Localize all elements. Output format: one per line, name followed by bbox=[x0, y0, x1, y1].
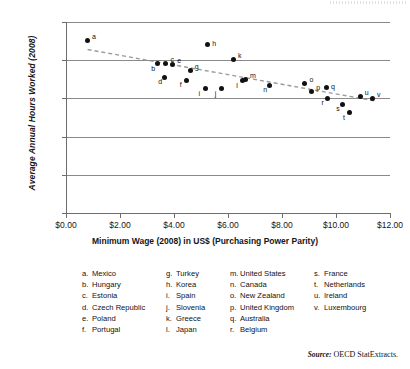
legend-item-key: k. bbox=[166, 313, 176, 324]
data-point-label: s bbox=[336, 105, 340, 112]
legend-item-key: p. bbox=[230, 302, 240, 313]
gridline bbox=[66, 22, 390, 23]
data-point-label: q bbox=[331, 83, 335, 90]
data-point-label: f bbox=[180, 81, 182, 88]
legend-item: g.Turkey bbox=[166, 268, 228, 279]
data-point-label: e bbox=[177, 57, 181, 64]
x-tick-label: $12.00 bbox=[367, 220, 410, 230]
trendline bbox=[66, 22, 390, 213]
legend-item: f.Portugal bbox=[82, 324, 162, 335]
legend-item-key: m. bbox=[230, 268, 240, 279]
legend-item-label: Spain bbox=[176, 291, 195, 300]
gridline bbox=[66, 175, 390, 176]
legend-item: c.Estonia bbox=[82, 290, 162, 301]
legend-item-label: Australia bbox=[240, 314, 270, 323]
data-point bbox=[324, 85, 329, 90]
legend-item-label: Hungary bbox=[92, 280, 121, 289]
x-tick-label: $0.00 bbox=[43, 220, 89, 230]
x-tick-mark bbox=[66, 213, 67, 218]
scan-artifact bbox=[330, 1, 406, 4]
x-tick-label: $6.00 bbox=[205, 220, 251, 230]
data-point bbox=[188, 68, 193, 73]
gridline bbox=[66, 98, 390, 99]
gridline bbox=[66, 60, 390, 61]
data-point-label: t bbox=[343, 114, 345, 121]
data-point-label: r bbox=[321, 99, 323, 106]
legend-item: u.Ireland bbox=[314, 290, 390, 301]
legend-item-key: s. bbox=[314, 268, 324, 279]
legend-item-key: r. bbox=[230, 324, 240, 335]
legend-column-4: s.Francet.Netherlandsu.Irelandv.Luxembou… bbox=[314, 268, 390, 313]
legend-item: o.New Zealand bbox=[230, 290, 312, 301]
legend-item-label: Portugal bbox=[92, 325, 120, 334]
legend-column-2: g.Turkeyh.Koreai.Spainj.Sloveniak.Greece… bbox=[166, 268, 228, 335]
legend-item-label: Slovenia bbox=[176, 303, 205, 312]
data-point-label: d bbox=[158, 78, 162, 85]
legend-item-key: h. bbox=[166, 279, 176, 290]
data-point-label: u bbox=[365, 89, 369, 96]
data-point-label: l bbox=[236, 82, 238, 89]
data-point-label: j bbox=[215, 90, 217, 97]
source-prefix: Source: bbox=[308, 350, 332, 359]
legend-item-key: i. bbox=[166, 290, 176, 301]
legend-item-key: o. bbox=[230, 290, 240, 301]
plot-area: 05001000150020002500$0.00$2.00$4.00$6.00… bbox=[66, 22, 390, 213]
legend-item: l.Japan bbox=[166, 324, 228, 335]
y-tick-mark bbox=[62, 60, 67, 61]
legend-item-key: l. bbox=[166, 324, 176, 335]
y-axis-title: Average Annual Hours Worked (2008) bbox=[27, 18, 37, 208]
legend-item: k.Greece bbox=[166, 313, 228, 324]
legend-item-key: u. bbox=[314, 290, 324, 301]
source-text: OECD StatExtracts. bbox=[334, 350, 398, 359]
legend-item-label: Japan bbox=[176, 325, 197, 334]
legend-item-label: Estonia bbox=[92, 291, 117, 300]
legend-item-label: United Kingdom bbox=[240, 303, 294, 312]
data-point bbox=[340, 102, 345, 107]
y-tick-mark bbox=[62, 98, 67, 99]
data-point bbox=[205, 42, 210, 47]
legend-item-label: Turkey bbox=[176, 269, 199, 278]
legend-item-label: United States bbox=[240, 269, 286, 278]
gridline bbox=[66, 137, 390, 138]
data-point bbox=[358, 94, 363, 99]
legend-item: e.Poland bbox=[82, 313, 162, 324]
legend-item-key: j. bbox=[166, 302, 176, 313]
data-point-label: h bbox=[212, 40, 216, 47]
data-point-label: i bbox=[199, 90, 201, 97]
data-point-label: m bbox=[250, 72, 256, 79]
legend-item: v.Luxembourg bbox=[314, 302, 390, 313]
legend-item: t.Netherlands bbox=[314, 279, 390, 290]
legend-item: j.Slovenia bbox=[166, 302, 228, 313]
legend-item-label: Greece bbox=[176, 314, 201, 323]
legend-item-label: Belgium bbox=[240, 325, 267, 334]
y-tick-mark bbox=[62, 175, 67, 176]
legend-item-label: New Zealand bbox=[240, 291, 285, 300]
legend-item-label: Korea bbox=[176, 280, 196, 289]
legend-item-label: Luxembourg bbox=[324, 303, 366, 312]
legend-item: m.United States bbox=[230, 268, 312, 279]
legend-item: i.Spain bbox=[166, 290, 228, 301]
legend-item-label: France bbox=[324, 269, 348, 278]
legend-item-label: Czech Republic bbox=[92, 303, 145, 312]
figure-page: Average Annual Hours Worked (2008) 05001… bbox=[0, 0, 410, 369]
x-tick-mark bbox=[120, 213, 121, 218]
data-point-label: o bbox=[309, 76, 313, 83]
legend-item: s.France bbox=[314, 268, 390, 279]
legend-item-key: b. bbox=[82, 279, 92, 290]
legend-item: r.Belgium bbox=[230, 324, 312, 335]
x-tick-mark bbox=[390, 213, 391, 218]
data-point bbox=[184, 78, 189, 83]
legend-item: b.Hungary bbox=[82, 279, 162, 290]
legend-column-3: m.United Statesn.Canadao.New Zealandp.Un… bbox=[230, 268, 312, 335]
x-tick-label: $10.00 bbox=[313, 220, 359, 230]
legend-item: h.Korea bbox=[166, 279, 228, 290]
data-point bbox=[231, 57, 236, 62]
data-point-label: b bbox=[151, 65, 155, 72]
x-tick-mark bbox=[228, 213, 229, 218]
legend-item-label: Mexico bbox=[92, 269, 116, 278]
legend-item-label: Poland bbox=[92, 314, 116, 323]
legend-item-key: e. bbox=[82, 313, 92, 324]
legend-item-key: d. bbox=[82, 302, 92, 313]
data-point-label: a bbox=[92, 33, 96, 40]
x-axis-title: Minimum Wage (2008) in US$ (Purchasing P… bbox=[0, 236, 410, 246]
